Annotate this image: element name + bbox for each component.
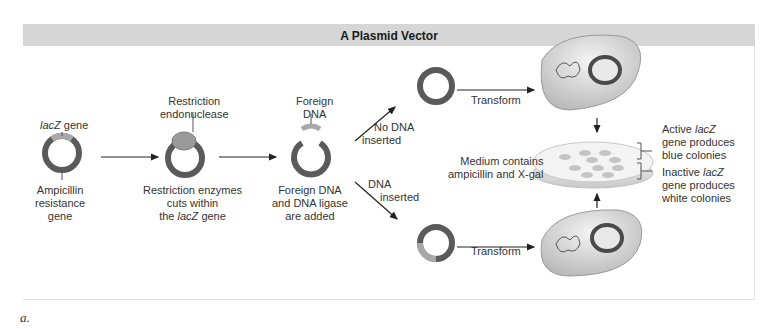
label-transform-bottom: Transform: [471, 245, 521, 258]
bacterium-bottom: [541, 210, 642, 276]
plasmid-vector-diagram: [0, 0, 762, 329]
bottom-divider: [23, 299, 754, 300]
label-inactive-lacz: Inactive lacZ gene produceswhite colonie…: [662, 166, 735, 205]
label-foreign-dna-added: Foreign DNAand DNA ligaseare added: [272, 184, 348, 223]
label-no-dna-inserted: No DNAinserted: [374, 121, 414, 147]
cut-plasmid: [294, 143, 328, 174]
plasmid-no-insert: [420, 70, 452, 102]
label-restriction-cuts: Restriction enzymescuts within the lacZ …: [143, 184, 242, 223]
label-ampicillin: Ampicillinresistancegene: [35, 184, 85, 223]
label-dna-inserted: DNAinserted: [368, 178, 419, 204]
label-transform-top: Transform: [471, 94, 521, 107]
label-active-lacz: Active lacZ gene producesblue colonies: [662, 123, 735, 162]
petri-dish: [533, 142, 653, 188]
label-lacz-gene: lacZ gene: [40, 119, 88, 132]
bacterium-top: [541, 35, 641, 110]
plasmid-with-insert: [420, 227, 452, 259]
label-medium: Medium containsampicillin and X-gal: [448, 155, 543, 181]
foreign-dna-fragment: [302, 126, 320, 129]
plasmid-with-enzyme: [168, 112, 202, 175]
plasmid-intact: [45, 132, 79, 180]
figure-label: a.: [20, 310, 30, 326]
right-border: [754, 46, 755, 300]
label-foreign-dna: ForeignDNA: [296, 95, 333, 121]
label-restriction-endonuclease: Restrictionendonuclease: [160, 95, 229, 121]
